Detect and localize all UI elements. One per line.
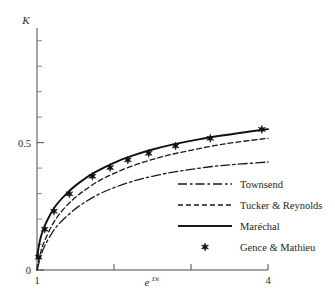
- data-markers-group: [35, 125, 265, 261]
- y-tick-label: 0: [26, 265, 31, 276]
- x-tick-label: 4: [265, 275, 271, 286]
- legend-group: TownsendTucker & ReynoldsMaréchalGence &…: [178, 179, 322, 253]
- legend-label: Maréchal: [240, 221, 280, 232]
- series-curve-townsend: [37, 162, 268, 270]
- x-axis-label-exponent: Dt: [151, 275, 160, 283]
- chart-figure: 00.514 K e Dt TownsendTucker & ReynoldsM…: [0, 0, 335, 299]
- series-curve-tucker-reynolds: [37, 138, 268, 270]
- y-tick-label: 0.5: [18, 138, 31, 149]
- series-group: [37, 129, 268, 270]
- x-ticks-group: [37, 264, 268, 270]
- legend-label: Tucker & Reynolds: [240, 200, 322, 211]
- chart-canvas: 00.514 K e Dt TownsendTucker & ReynoldsM…: [0, 0, 335, 299]
- legend-label: Townsend: [240, 179, 284, 190]
- legend-marker-sample: [202, 243, 209, 251]
- y-axis-label: K: [21, 14, 30, 26]
- x-tick-label: 1: [34, 275, 39, 286]
- legend-label: Gence & Mathieu: [240, 242, 316, 253]
- x-axis-label-base: e: [145, 276, 150, 288]
